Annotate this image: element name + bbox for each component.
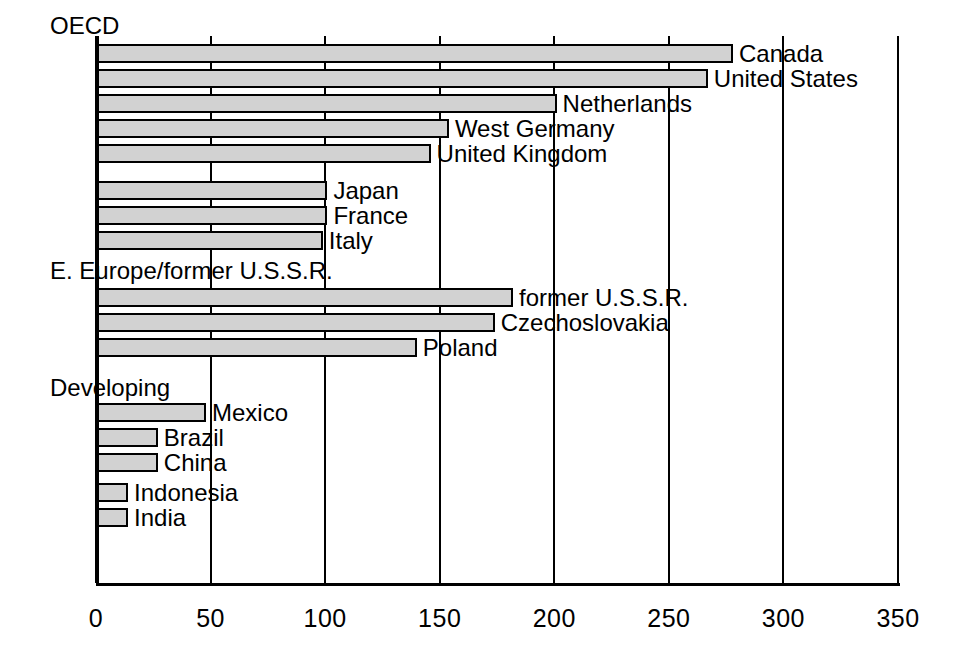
- bar-label-czechoslovakia: Czechoslovakia: [501, 311, 669, 335]
- bar-label-poland: Poland: [423, 336, 498, 360]
- bar-france: [96, 206, 327, 225]
- x-axis-line: [96, 583, 900, 586]
- bar-west-germany: [96, 119, 449, 138]
- bar-czechoslovakia: [96, 313, 495, 332]
- bar-india: [96, 508, 128, 527]
- bar-canada: [96, 44, 733, 63]
- x-tick-0: 0: [89, 604, 103, 632]
- bar-former-u-s-s-r: [96, 288, 513, 307]
- bar-united-kingdom: [96, 144, 431, 163]
- bar-label-united-states: United States: [714, 67, 858, 91]
- bar-label-indonesia: Indonesia: [134, 481, 238, 505]
- bar-brazil: [96, 428, 158, 447]
- bar-italy: [96, 231, 323, 250]
- x-tick-150: 150: [418, 604, 461, 632]
- bar-japan: [96, 181, 327, 200]
- gridline-300: [782, 36, 784, 583]
- bar-label-west-germany: West Germany: [455, 117, 615, 141]
- bar-indonesia: [96, 483, 128, 502]
- bar-china: [96, 453, 158, 472]
- bar-label-italy: Italy: [329, 229, 373, 253]
- bar-label-mexico: Mexico: [212, 401, 288, 425]
- bar-label-france: France: [333, 204, 408, 228]
- x-tick-350: 350: [876, 604, 919, 632]
- x-tick-300: 300: [762, 604, 805, 632]
- bar-label-japan: Japan: [333, 179, 398, 203]
- bar-label-former-u-s-s-r: former U.S.S.R.: [519, 286, 688, 310]
- bar-label-china: China: [164, 451, 227, 475]
- bar-chart: OECD E. Europe/former U.S.S.R. Developin…: [0, 0, 957, 665]
- bar-label-canada: Canada: [739, 42, 823, 66]
- bar-label-brazil: Brazil: [164, 426, 224, 450]
- bar-netherlands: [96, 94, 557, 113]
- bar-label-india: India: [134, 506, 186, 530]
- bar-label-united-kingdom: United Kingdom: [437, 142, 608, 166]
- x-tick-50: 50: [196, 604, 225, 632]
- bar-poland: [96, 338, 417, 357]
- group-heading-oecd: OECD: [50, 14, 119, 38]
- bar-label-netherlands: Netherlands: [563, 92, 692, 116]
- gridline-350: [897, 36, 899, 583]
- y-axis-line: [96, 36, 99, 586]
- bar-mexico: [96, 403, 206, 422]
- x-tick-200: 200: [533, 604, 576, 632]
- bar-united-states: [96, 69, 708, 88]
- x-tick-100: 100: [304, 604, 347, 632]
- x-tick-250: 250: [647, 604, 690, 632]
